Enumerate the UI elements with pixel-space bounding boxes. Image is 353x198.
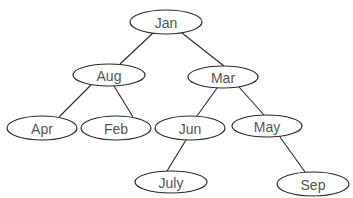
edge-may-sep [280, 137, 305, 172]
node-sep: Sep [277, 172, 349, 196]
node-aug-label: Aug [97, 68, 122, 84]
node-apr-label: Apr [31, 121, 53, 137]
edge-mar-may [239, 87, 264, 115]
edge-aug-apr [59, 85, 91, 117]
node-feb: Feb [81, 116, 151, 140]
node-may-label: May [254, 119, 280, 135]
node-jun-label: Jun [179, 121, 202, 137]
node-sep-label: Sep [301, 177, 326, 193]
edge-mar-jun [197, 88, 217, 116]
edges-group [59, 33, 305, 172]
edge-jun-july [167, 140, 186, 171]
node-jun: Jun [155, 116, 225, 140]
tree-diagram: Jan Aug Mar Apr Feb Jun May July [0, 0, 353, 198]
node-jan-label: Jan [155, 15, 178, 31]
edge-jan-aug [120, 33, 153, 64]
node-feb-label: Feb [104, 121, 128, 137]
node-july: July [135, 171, 207, 193]
node-aug: Aug [73, 64, 145, 86]
node-apr: Apr [7, 116, 77, 140]
edge-aug-feb [114, 86, 133, 117]
node-mar-label: Mar [211, 70, 235, 86]
edge-jan-mar [182, 33, 224, 66]
node-july-label: July [159, 175, 184, 191]
nodes-group: Jan Aug Mar Apr Feb Jun May July [7, 10, 349, 196]
node-mar: Mar [188, 66, 258, 88]
node-may: May [232, 115, 302, 137]
node-jan: Jan [130, 10, 202, 34]
